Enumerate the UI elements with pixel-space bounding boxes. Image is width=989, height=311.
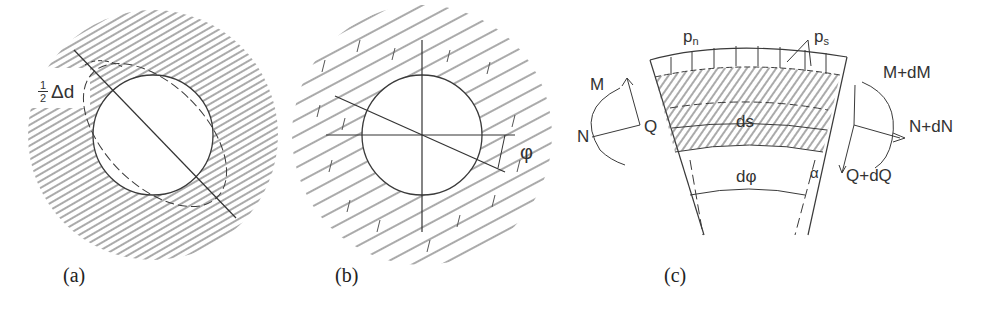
panel-c [591, 40, 905, 235]
ps-sub: s [823, 35, 829, 47]
q-dq-label: Q+dQ [846, 167, 892, 184]
m-label: M [590, 76, 604, 93]
opening-circle [93, 75, 213, 195]
caption-b: (b) [335, 265, 358, 285]
panel-b [290, 5, 555, 265]
panel-a [28, 10, 278, 260]
figure-canvas [0, 0, 989, 311]
dphi-label: dφ [736, 168, 756, 185]
alpha-label: α [810, 165, 819, 180]
ps-label: ps [814, 28, 829, 47]
phi-label: φ [520, 142, 533, 162]
pn-sub: n [692, 35, 698, 47]
half-denominator: 2 [38, 93, 48, 104]
q-label: Q [644, 118, 657, 135]
delta-d-label: Δd [51, 82, 74, 101]
half-numerator: 1 [38, 80, 48, 91]
pn-label: pn [683, 28, 699, 47]
n-dn-label: N+dN [909, 118, 953, 135]
caption-c: (c) [664, 265, 686, 285]
ds-label: ds [736, 113, 754, 130]
n-label: N [577, 128, 589, 145]
lining-segment [655, 67, 840, 152]
caption-a: (a) [63, 265, 85, 285]
m-dm-label: M+dM [883, 64, 931, 81]
